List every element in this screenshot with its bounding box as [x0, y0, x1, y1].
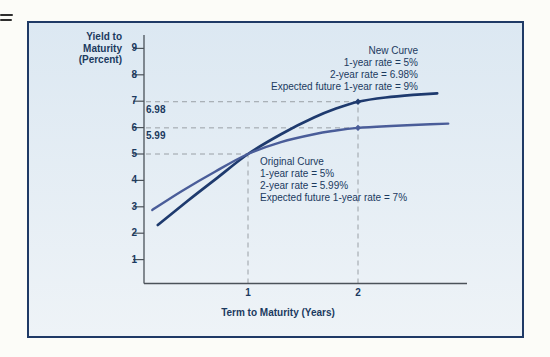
guide-value-label-698: 6.98 [146, 104, 165, 115]
new-curve-annotation-line: 2-year rate = 6.98% [271, 69, 418, 81]
y-axis-title-line: Maturity [79, 43, 122, 55]
x-tick-label: 2 [348, 287, 368, 298]
y-tick-label: 6 [131, 122, 137, 134]
original-curve-annotation-line: 2-year rate = 5.99% [260, 180, 407, 192]
new-curve-annotation: New Curve 1-year rate = 5% 2-year rate =… [271, 45, 418, 93]
page: Yield to Maturity (Percent) Term to Matu… [0, 0, 550, 357]
y-tick-label: 1 [131, 254, 137, 266]
y-tick-label: 8 [131, 69, 137, 81]
new-curve-annotation-line: 1-year rate = 5% [271, 57, 418, 69]
original-curve-annotation: Original Curve 1-year rate = 5% 2-year r… [260, 156, 407, 204]
original-curve-annotation-line: Expected future 1-year rate = 7% [260, 192, 407, 204]
y-tick-label: 2 [131, 227, 137, 239]
x-tick-label: 1 [238, 287, 258, 298]
y-tick-label: 4 [131, 174, 137, 186]
new-curve-annotation-title: New Curve [271, 45, 418, 57]
y-axis-title-line: (Percent) [79, 54, 122, 66]
guide-value-label-599: 5.99 [146, 130, 165, 141]
data-point-marker [355, 99, 361, 105]
y-axis-title: Yield to Maturity (Percent) [79, 31, 122, 66]
y-tick-label: 9 [131, 42, 137, 54]
x-axis-title: Term to Maturity (Years) [178, 307, 378, 318]
original-curve-annotation-title: Original Curve [260, 156, 407, 168]
y-axis-title-line: Yield to [79, 31, 122, 43]
data-point-marker [355, 125, 361, 131]
y-tick-label: 7 [131, 95, 137, 107]
new-curve-annotation-line: Expected future 1-year rate = 9% [271, 81, 418, 93]
original-curve-annotation-line: 1-year rate = 5% [260, 168, 407, 180]
y-tick-label: 5 [131, 148, 137, 160]
y-tick-label: 3 [131, 201, 137, 213]
